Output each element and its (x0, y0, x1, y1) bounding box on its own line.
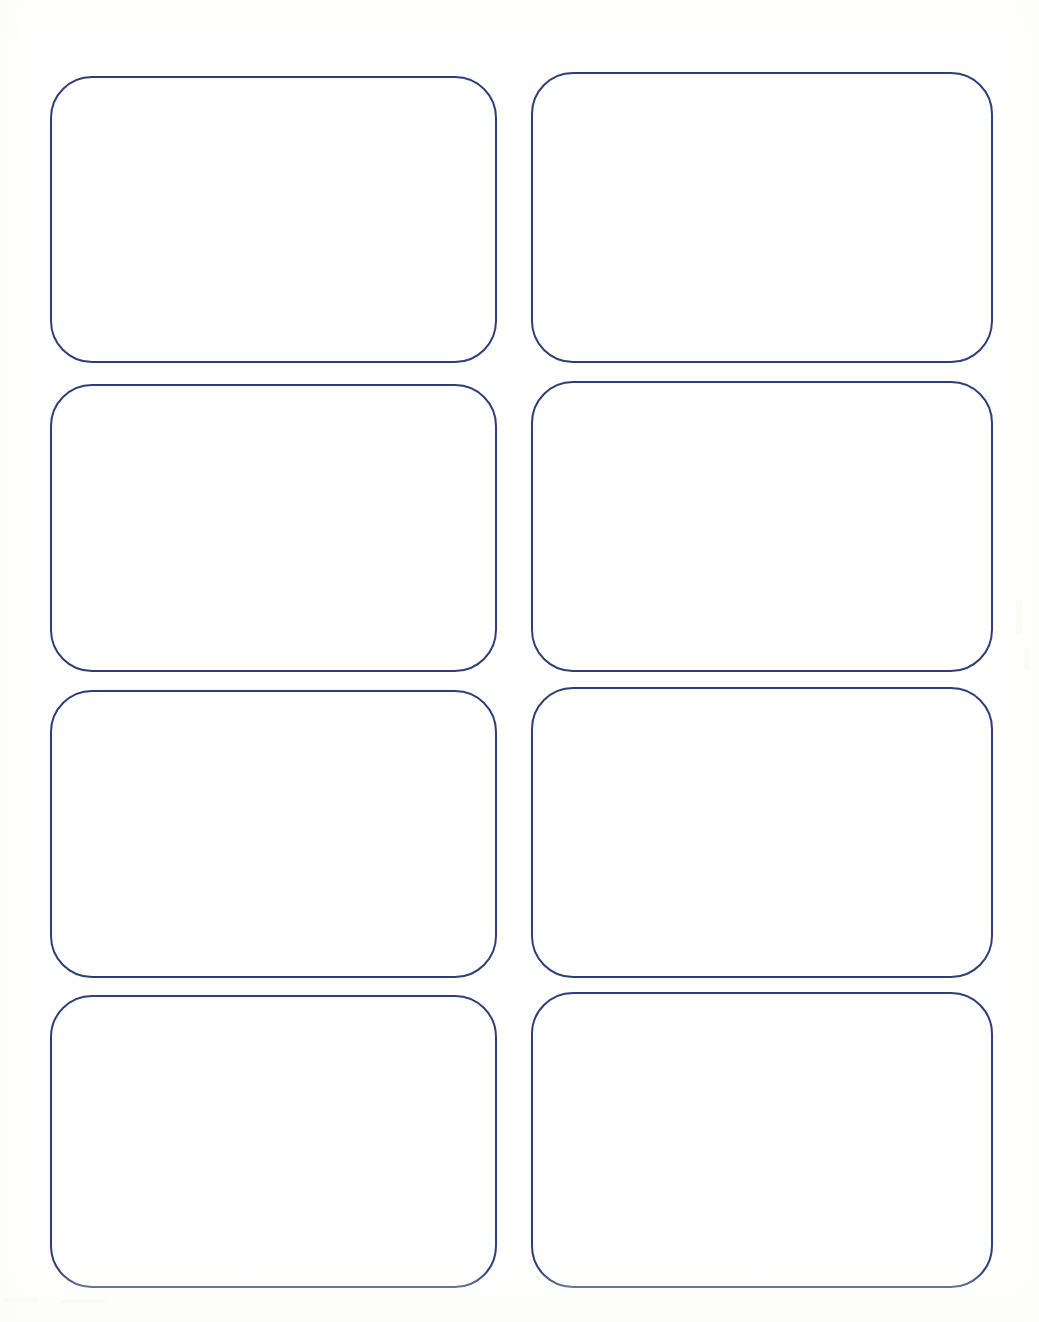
card-outline-row-4-column-2[interactable] (531, 992, 993, 1288)
card-outline-row-1-column-1[interactable] (50, 76, 497, 363)
card-outline-row-3-column-2[interactable] (531, 687, 993, 978)
card-outline-row-3-column-1[interactable] (50, 690, 497, 978)
card-outline-row-2-column-2[interactable] (531, 381, 993, 672)
card-grid (0, 0, 1039, 1322)
card-outline-row-2-column-1[interactable] (50, 384, 497, 672)
card-outline-row-4-column-1[interactable] (50, 995, 497, 1288)
card-outline-row-1-column-2[interactable] (531, 72, 993, 363)
template-sheet (0, 0, 1039, 1322)
